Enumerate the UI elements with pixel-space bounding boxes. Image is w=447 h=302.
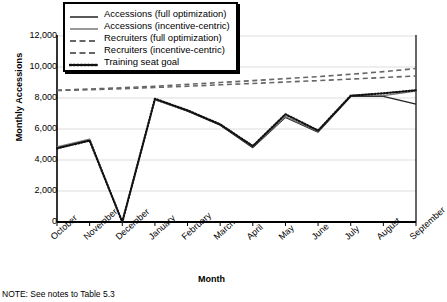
legend-label: Recruiters (incentive-centric) — [104, 44, 225, 55]
x-tick-label-october: October — [49, 213, 79, 242]
x-tick-label-december: December — [114, 207, 152, 242]
x-tick-label-february: February — [179, 210, 212, 242]
x-tick-label-july: July — [342, 224, 361, 242]
chart-legend: Accessions (full optimization)Accessions… — [63, 2, 238, 72]
solid-dark-key — [69, 8, 99, 19]
x-tick-label-august: August — [375, 216, 403, 242]
legend-item: Recruiters (full optimization) — [69, 31, 230, 43]
x-tick-label-march: March — [212, 218, 237, 242]
y-axis-title: Monthly Accessions — [14, 42, 24, 152]
footnote: NOTE: See notes to Table 5.3 — [2, 289, 115, 299]
x-tick-label-april: April — [244, 222, 264, 241]
x-tick-label-january: January — [147, 213, 177, 242]
legend-label: Accessions (incentive-centric) — [104, 20, 230, 31]
legend-label: Recruiters (full optimization) — [104, 32, 222, 43]
legend-item: Accessions (full optimization) — [69, 7, 230, 19]
dashed-key — [69, 32, 99, 43]
x-tick-label-may: May — [277, 223, 296, 242]
solid-gray-key — [69, 20, 99, 31]
x-tick-label-september: September — [408, 205, 447, 242]
legend-label: Training seat goal — [104, 56, 179, 67]
x-tick-label-november: November — [81, 207, 119, 242]
legend-item: Accessions (incentive-centric) — [69, 19, 230, 31]
legend-item: Training seat goal — [69, 55, 230, 67]
legend-item: Recruiters (incentive-centric) — [69, 43, 230, 55]
legend-label: Accessions (full optimization) — [104, 8, 227, 19]
x-tick-label-june: June — [310, 221, 331, 242]
x-axis-title: Month — [0, 274, 423, 284]
dashed-key — [69, 44, 99, 55]
dotted-key — [69, 56, 99, 67]
